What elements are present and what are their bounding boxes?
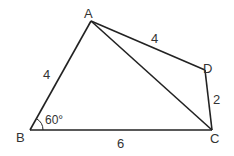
vertex-label-d: D — [203, 61, 212, 76]
length-label-da: 4 — [151, 31, 158, 46]
geometry-diagram: A B C D 4 6 2 4 60° — [0, 0, 234, 156]
length-label-ab: 4 — [43, 67, 50, 82]
angle-arc-b — [37, 119, 44, 130]
edge-cd — [205, 70, 212, 130]
vertex-label-a: A — [84, 6, 93, 21]
length-label-cd: 2 — [213, 92, 220, 107]
length-label-bc: 6 — [117, 136, 124, 151]
vertex-label-b: B — [16, 130, 25, 145]
angle-label-b: 60° — [45, 113, 63, 127]
edge-da — [91, 21, 205, 70]
vertex-label-c: C — [210, 131, 219, 146]
